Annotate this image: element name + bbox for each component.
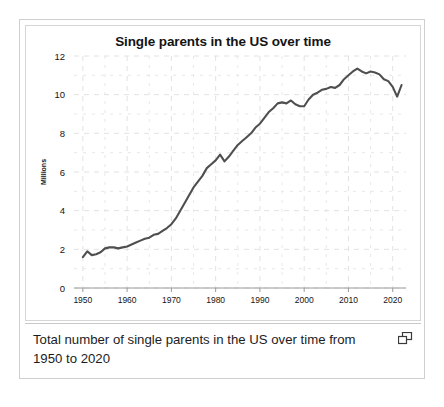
line-chart-svg: 1950196019701980199020002010202002468101… — [26, 26, 420, 320]
svg-text:1990: 1990 — [250, 295, 269, 305]
expand-window-icon[interactable] — [398, 332, 413, 346]
chart-panel: Single parents in the US over time 19501… — [25, 25, 421, 321]
svg-text:4: 4 — [60, 205, 65, 216]
svg-text:2: 2 — [60, 244, 65, 255]
svg-text:2000: 2000 — [295, 295, 314, 305]
svg-text:1980: 1980 — [206, 295, 225, 305]
figure-caption: Total number of single parents in the US… — [33, 330, 387, 368]
plot-area: 1950196019701980199020002010202002468101… — [26, 26, 420, 320]
svg-text:12: 12 — [54, 51, 65, 62]
figure-card: Single parents in the US over time 19501… — [19, 19, 425, 379]
svg-text:2010: 2010 — [339, 295, 358, 305]
svg-text:1950: 1950 — [73, 295, 92, 305]
expand-window-glyph — [398, 332, 413, 346]
svg-text:10: 10 — [54, 89, 65, 100]
svg-text:2020: 2020 — [383, 295, 402, 305]
caption-area: Total number of single parents in the US… — [25, 324, 421, 375]
svg-text:1960: 1960 — [118, 295, 137, 305]
svg-text:1970: 1970 — [162, 295, 181, 305]
svg-text:6: 6 — [60, 167, 65, 178]
svg-text:Millions: Millions — [40, 159, 47, 185]
screenshot-root: Single parents in the US over time 19501… — [0, 0, 444, 407]
svg-text:0: 0 — [60, 283, 65, 294]
svg-text:8: 8 — [60, 128, 65, 139]
